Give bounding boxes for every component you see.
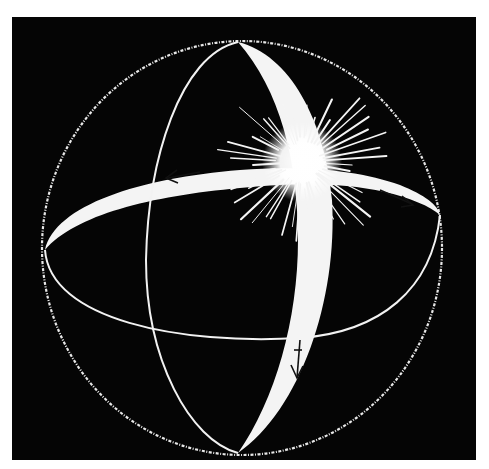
vertical-orbit-band — [238, 42, 333, 453]
burst-glow — [262, 122, 342, 202]
horizontal-orbit-lower — [45, 215, 440, 339]
outer-sphere — [42, 41, 442, 455]
diagram-panel: Sphere with two intersecting orbital pat… — [12, 17, 476, 460]
sphere-diagram — [12, 17, 476, 460]
horizontal-orbit-band — [45, 168, 440, 250]
vertical-orbit-left — [146, 42, 238, 453]
